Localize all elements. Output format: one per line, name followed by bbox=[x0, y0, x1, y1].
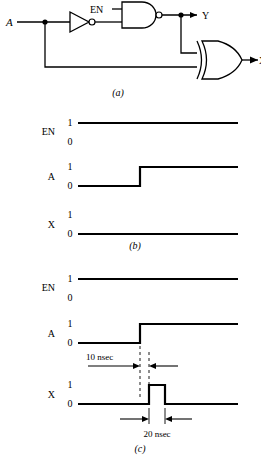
timing-diagram-b: EN 1 0 A 1 0 X 1 0 (b) bbox=[42, 117, 238, 252]
level-high-a-c: 1 bbox=[68, 318, 73, 329]
signal-label-x-c: X bbox=[48, 389, 56, 400]
level-low-en-c: 0 bbox=[68, 292, 73, 303]
annotation-gap-arrowhead-left bbox=[149, 363, 156, 369]
nand-bubble-icon bbox=[156, 12, 162, 18]
waveform-a-c bbox=[78, 324, 238, 343]
signal-label-en-b: EN bbox=[42, 126, 55, 137]
annotation-20nsec-label: 20 nsec bbox=[143, 429, 170, 439]
arrowhead-y bbox=[190, 12, 197, 18]
xor-gate-body bbox=[202, 41, 242, 79]
signal-label-en-c: EN bbox=[42, 282, 55, 293]
level-low-x-b: 0 bbox=[68, 228, 73, 239]
output-label-x: X bbox=[259, 55, 261, 66]
level-low-a-c: 0 bbox=[68, 337, 73, 348]
nand-gate-body bbox=[122, 2, 156, 28]
caption-a: (a) bbox=[112, 87, 124, 99]
circuit-diagram: A EN Y X (a) bbox=[5, 2, 261, 99]
annotation-20nsec-arrowhead-left bbox=[165, 416, 172, 422]
caption-b: (b) bbox=[129, 240, 141, 252]
level-high-x-c: 1 bbox=[68, 379, 73, 390]
waveform-x-c-glitch bbox=[78, 385, 238, 404]
wire-a-feedback-to-xor bbox=[45, 22, 197, 67]
timing-diagram-c: EN 1 0 A 1 0 10 nsec X 1 0 20 nsec (c) bbox=[42, 273, 238, 455]
inverter-gate-body bbox=[70, 12, 89, 32]
level-high-x-b: 1 bbox=[68, 209, 73, 220]
level-high-en-c: 1 bbox=[68, 273, 73, 284]
annotation-10nsec-label: 10 nsec bbox=[86, 352, 113, 362]
level-low-a-b: 0 bbox=[68, 180, 73, 191]
level-high-a-b: 1 bbox=[68, 161, 73, 172]
input-label-a: A bbox=[5, 16, 13, 28]
signal-label-a-c: A bbox=[48, 328, 56, 339]
level-low-en-b: 0 bbox=[68, 136, 73, 147]
waveform-a-b bbox=[78, 167, 238, 186]
input-label-en: EN bbox=[90, 4, 103, 15]
signal-label-x-b: X bbox=[48, 219, 56, 230]
annotation-10nsec-arrowhead-right bbox=[133, 363, 140, 369]
inverter-bubble-icon bbox=[89, 19, 95, 25]
caption-c: (c) bbox=[134, 443, 146, 455]
annotation-20nsec-arrowhead-right bbox=[142, 416, 149, 422]
level-low-x-c: 0 bbox=[68, 398, 73, 409]
output-label-y: Y bbox=[202, 10, 209, 21]
xor-extra-arc bbox=[197, 41, 202, 79]
figure-root: A EN Y X (a) EN 1 bbox=[0, 0, 261, 455]
level-high-en-b: 1 bbox=[68, 117, 73, 128]
signal-label-a-b: A bbox=[48, 171, 56, 182]
wire-y-to-xor bbox=[181, 15, 197, 53]
arrowhead-x bbox=[250, 57, 258, 64]
